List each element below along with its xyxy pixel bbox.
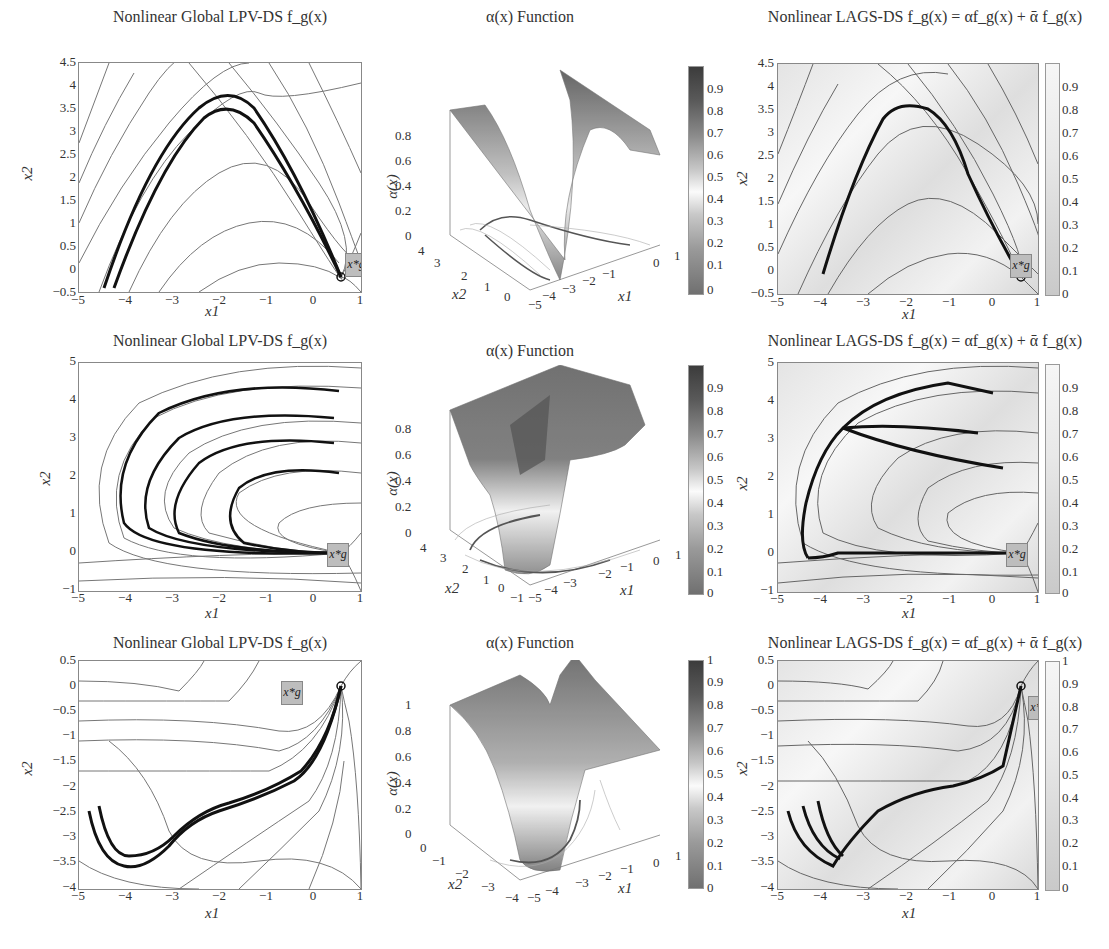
tick-label: 3 [440, 550, 447, 566]
panel-title: Nonlinear Global LPV-DS f_g(x) [100, 332, 340, 350]
tick-label: 0 [707, 585, 714, 601]
tick-label: −4 [505, 890, 519, 906]
tick-label: 0.2 [1062, 541, 1078, 557]
tick-label: 1 [42, 505, 76, 521]
tick-label: 0.2 [395, 499, 411, 515]
tick-label: 0.3 [1062, 812, 1078, 828]
tick-label: 1 [740, 506, 774, 522]
tick-label: 0.7 [1062, 721, 1078, 737]
goal-marker: x*g [327, 543, 349, 567]
tick-label: 0 [707, 282, 714, 298]
tick-label: 0.8 [1062, 403, 1078, 419]
x-axis-label: x1 [902, 306, 916, 323]
tick-label: 0 [980, 294, 1004, 310]
tick-label: 5 [42, 353, 76, 369]
tick-label: 5 [740, 354, 774, 370]
tick-label: 0 [498, 580, 505, 596]
tick-label: 0.5 [707, 766, 723, 782]
tick-label: −3 [740, 828, 774, 844]
tick-label: −1 [620, 559, 634, 575]
tick-label: −3 [160, 590, 184, 606]
tick-label: −4 [113, 888, 137, 904]
tick-label: 0.3 [707, 518, 723, 534]
tick-label: −1 [937, 294, 961, 310]
streamlines [79, 63, 361, 292]
tick-label: −0.5 [42, 702, 76, 718]
x1-axis-label: x1 [618, 288, 632, 305]
x-axis-label: x1 [205, 605, 219, 622]
tick-label: 1 [675, 547, 682, 563]
streamline-plot: x*g [78, 660, 362, 890]
tick-label: −3 [575, 875, 589, 891]
tick-label: 0 [301, 292, 325, 308]
tick-label: 3 [434, 255, 441, 271]
tick-label: 0.8 [395, 723, 411, 739]
tick-label: 4 [42, 391, 76, 407]
tick-label: −3.5 [740, 853, 774, 869]
tick-label: 0.2 [707, 541, 723, 557]
tick-label: −1 [432, 853, 446, 869]
tick-label: −4 [808, 888, 832, 904]
tick-label: 1.5 [42, 192, 76, 208]
tick-label: 1 [42, 215, 76, 231]
tick-label: 0.9 [1062, 380, 1078, 396]
tick-label: 0 [653, 255, 660, 271]
tick-label: −2 [598, 566, 612, 582]
tick-label: 3.5 [740, 101, 774, 117]
tick-label: 1 [707, 652, 714, 668]
z-axis-label: α(x) [384, 771, 401, 796]
tick-label: 0.1 [707, 257, 723, 273]
tick-label: 0 [980, 888, 1004, 904]
tick-label: −1 [620, 861, 634, 877]
colorbar [1045, 364, 1060, 594]
y-axis-label: x2 [19, 761, 36, 775]
tick-label: 0.8 [1062, 102, 1078, 118]
tick-label: 3 [740, 124, 774, 140]
tick-label: 0.3 [1062, 217, 1078, 233]
tick-label: 3.5 [42, 100, 76, 116]
tick-label: 0.3 [1062, 518, 1078, 534]
tick-label: −2 [42, 778, 76, 794]
tick-label: −1 [740, 727, 774, 743]
tick-label: 0.8 [395, 421, 411, 437]
colorbar [1045, 63, 1060, 296]
tick-label: 0 [653, 855, 660, 871]
tick-label: 1 [1025, 294, 1049, 310]
tick-label: 0.4 [1062, 495, 1078, 511]
tick-label: −5 [66, 888, 90, 904]
tick-label: −5 [528, 590, 542, 606]
tick-label: −2 [207, 888, 231, 904]
tick-label: −4 [113, 590, 137, 606]
tick-label: 0.5 [707, 472, 723, 488]
tick-label: 0.7 [1062, 426, 1078, 442]
tick-label: 0.4 [1062, 790, 1078, 806]
tick-label: −4 [113, 292, 137, 308]
tick-label: −1 [510, 590, 524, 606]
y-axis-label: x2 [734, 171, 751, 185]
tick-label: 0.5 [1062, 472, 1078, 488]
tick-label: 0 [42, 677, 76, 693]
tick-label: 0.6 [707, 743, 723, 759]
tick-label: −1 [937, 888, 961, 904]
tick-label: 1 [675, 848, 682, 864]
x-axis-label: x1 [205, 905, 219, 922]
tick-label: 0 [42, 261, 76, 277]
tick-label: 4.5 [42, 54, 76, 70]
tick-label: −2 [740, 778, 774, 794]
tick-label: 0.7 [1062, 125, 1078, 141]
tick-label: 0.4 [707, 191, 723, 207]
tick-label: −2.5 [42, 803, 76, 819]
streamlines [79, 363, 361, 591]
surface-3d-plot [410, 660, 680, 900]
tick-label: −1.5 [42, 752, 76, 768]
tick-label: −1 [254, 888, 278, 904]
tick-label: −4 [808, 591, 832, 607]
panel-title: Nonlinear Global LPV-DS f_g(x) [100, 8, 340, 26]
tick-label: 0.8 [707, 697, 723, 713]
tick-label: 0 [301, 888, 325, 904]
tick-label: 0.6 [1062, 449, 1078, 465]
tick-label: −1 [254, 292, 278, 308]
z-axis-label: α(x) [384, 471, 401, 496]
colorbar [688, 66, 704, 295]
tick-label: 0.5 [42, 652, 76, 668]
